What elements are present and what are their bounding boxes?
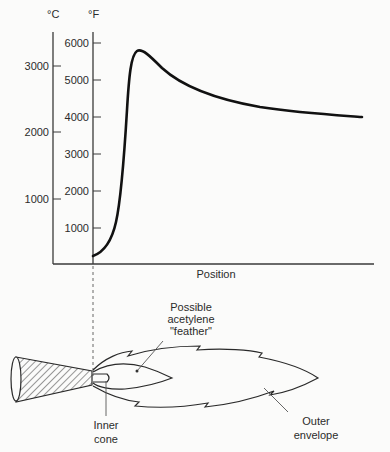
inner-cone xyxy=(93,374,109,382)
celsius-tick-2000: 2000 xyxy=(25,126,49,138)
svg-text:Inner: Inner xyxy=(93,419,118,431)
outer-envelope-label: Outer envelope xyxy=(264,388,338,441)
svg-text:envelope: envelope xyxy=(294,429,339,441)
fahrenheit-ticks: 6000 5000 4000 3000 2000 1000 xyxy=(65,37,101,234)
torch-tip xyxy=(11,357,92,402)
outer-envelope xyxy=(93,346,318,407)
fahrenheit-tick-3000: 3000 xyxy=(65,148,89,160)
celsius-tick-3000: 3000 xyxy=(25,60,49,72)
fahrenheit-tick-4000: 4000 xyxy=(65,111,89,123)
fahrenheit-tick-1000: 1000 xyxy=(65,222,89,234)
acetylene-feather xyxy=(93,364,172,389)
feather-label: Possible acetylene "feather" xyxy=(136,301,215,373)
svg-text:Outer: Outer xyxy=(302,415,330,427)
svg-text:acetylene: acetylene xyxy=(167,313,214,325)
fahrenheit-tick-5000: 5000 xyxy=(65,74,89,86)
fahrenheit-tick-6000: 6000 xyxy=(65,37,89,49)
svg-text:"feather": "feather" xyxy=(170,325,212,337)
temperature-curve xyxy=(93,50,362,256)
celsius-axis-label: °C xyxy=(47,8,59,20)
celsius-ticks: 3000 2000 1000 xyxy=(25,60,61,205)
svg-text:cone: cone xyxy=(94,433,118,445)
fahrenheit-tick-2000: 2000 xyxy=(65,185,89,197)
fahrenheit-axis-label: °F xyxy=(88,8,99,20)
inner-cone-label: Inner cone xyxy=(93,381,118,445)
svg-text:Possible: Possible xyxy=(170,301,212,313)
x-axis-label: Position xyxy=(196,268,235,280)
flame-temperature-figure: °C °F 3000 2000 1000 6000 5000 4000 3000… xyxy=(0,0,390,452)
celsius-tick-1000: 1000 xyxy=(25,193,49,205)
